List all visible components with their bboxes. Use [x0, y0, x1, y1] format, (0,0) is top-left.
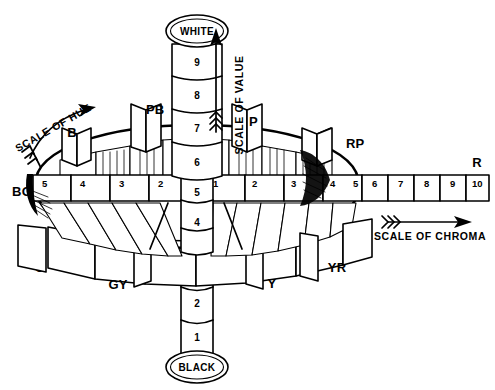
chroma-left-tick-5: 5	[42, 178, 48, 189]
chroma-right-tick-7: 7	[398, 178, 403, 189]
figure-canvas: BLACK 2 1	[0, 0, 495, 390]
value-tick-5: 5	[194, 187, 200, 198]
chroma-right-tick-5: 5	[353, 178, 359, 189]
hue-label-R: R	[472, 155, 482, 170]
chroma-right-tick-8: 8	[424, 178, 429, 189]
chroma-mid-band	[33, 175, 489, 201]
value-tick-7: 7	[194, 123, 200, 134]
value-tick-8: 8	[194, 90, 200, 101]
hue-label-Y: Y	[268, 276, 277, 291]
scale-of-chroma-label: SCALE OF CHROMA	[374, 230, 486, 242]
munsell-color-system-figure: BLACK 2 1	[0, 0, 495, 390]
chroma-right-tick-6: 6	[372, 178, 377, 189]
black-pole-label: BLACK	[179, 362, 216, 373]
chroma-right-tick-1: 1	[213, 178, 219, 189]
hue-label-BG: BG	[12, 184, 32, 199]
white-pole-label: WHITE	[180, 26, 214, 37]
value-axis-mid-column	[181, 170, 213, 255]
chroma-right-tick-3: 3	[291, 178, 296, 189]
value-tick-9: 9	[194, 57, 200, 68]
chroma-right-tick-10: 10	[472, 178, 483, 189]
hue-label-GY: GY	[108, 277, 127, 292]
value-tick-1: 1	[194, 332, 200, 343]
hue-label-B: B	[67, 125, 77, 140]
value-tick-6: 6	[194, 157, 200, 168]
value-tick-2: 2	[194, 298, 200, 309]
hue-label-PB: PB	[146, 102, 164, 117]
chroma-right-tick-9: 9	[450, 178, 455, 189]
chroma-right-tick-2: 2	[252, 178, 257, 189]
chroma-left-tick-2: 2	[158, 178, 163, 189]
hue-label-RP: RP	[346, 136, 365, 151]
chroma-right-tick-4: 4	[330, 178, 336, 189]
scale-of-value-label: SCALE OF VALUE	[233, 55, 245, 154]
chroma-left-tick-3: 3	[119, 178, 124, 189]
value-tick-4: 4	[194, 217, 200, 228]
chroma-left-tick-4: 4	[80, 178, 86, 189]
hue-label-P: P	[249, 114, 258, 129]
